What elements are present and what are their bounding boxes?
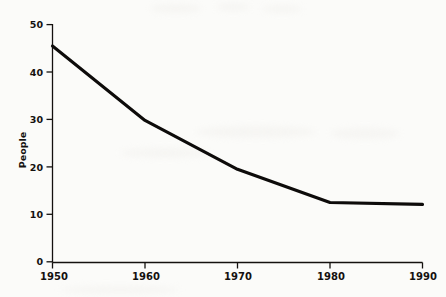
y-tick-label-20: 20 bbox=[30, 162, 44, 173]
x-tick-label-1980: 1980 bbox=[317, 271, 345, 282]
chart-figure: 50 40 30 20 10 0 1950 1960 1970 1980 199… bbox=[0, 0, 446, 297]
chart-canvas: 50 40 30 20 10 0 1950 1960 1970 1980 199… bbox=[0, 0, 446, 297]
x-tick-label-1970: 1970 bbox=[224, 271, 252, 282]
y-tick-label-40: 40 bbox=[30, 67, 44, 78]
x-tick-label-1950: 1950 bbox=[40, 271, 68, 282]
y-tick-label-0: 0 bbox=[36, 256, 43, 267]
x-tick-label-1990: 1990 bbox=[409, 271, 437, 282]
y-axis-title: People bbox=[17, 132, 28, 168]
y-tick-label-30: 30 bbox=[30, 114, 44, 125]
y-tick-label-10: 10 bbox=[30, 209, 44, 220]
series-line-people bbox=[53, 46, 423, 204]
y-tick-label-50: 50 bbox=[30, 19, 44, 30]
x-tick-label-1960: 1960 bbox=[132, 271, 160, 282]
